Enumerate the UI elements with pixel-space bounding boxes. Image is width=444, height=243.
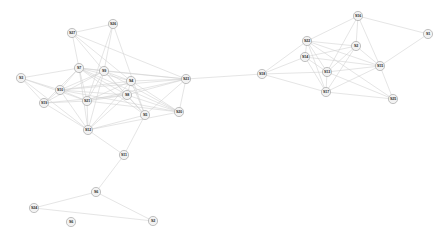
graph-edge bbox=[327, 72, 393, 99]
graph-node[interactable]: S25 bbox=[388, 94, 397, 103]
graph-node-label: S10 bbox=[57, 88, 63, 92]
graph-edge bbox=[87, 79, 186, 101]
graph-edge bbox=[358, 16, 428, 34]
graph-node-label: S14 bbox=[302, 55, 308, 59]
graph-node[interactable]: S1 bbox=[423, 29, 432, 38]
graph-node[interactable]: S12 bbox=[83, 125, 92, 134]
graph-node[interactable]: S22 bbox=[302, 36, 311, 45]
graph-edge bbox=[34, 192, 96, 208]
graph-node-label: S20 bbox=[176, 110, 182, 114]
graph-node[interactable]: S3 bbox=[16, 73, 25, 82]
graph-edge bbox=[327, 66, 380, 72]
graph-edge bbox=[113, 24, 145, 115]
graph-edge bbox=[21, 78, 88, 130]
graph-node-label: S13 bbox=[324, 70, 330, 74]
graph-node-label: S6 bbox=[94, 190, 98, 194]
graph-node-label: S22 bbox=[304, 39, 310, 43]
graph-node-label: S19 bbox=[41, 101, 47, 105]
graph-edge bbox=[262, 57, 305, 74]
graph-node[interactable]: S13 bbox=[322, 67, 331, 76]
graph-node-label: S24 bbox=[31, 206, 37, 210]
graph-node-label: S2 bbox=[354, 44, 358, 48]
graph-edge bbox=[72, 33, 79, 68]
graph-node-label: S1 bbox=[426, 32, 430, 36]
graph-node[interactable]: S24 bbox=[29, 203, 38, 212]
graph-node[interactable]: S19 bbox=[39, 98, 48, 107]
graph-node-label: S17 bbox=[323, 90, 329, 94]
graph-edge bbox=[44, 103, 88, 130]
graph-edge bbox=[88, 130, 124, 155]
graph-node[interactable]: S23 bbox=[181, 74, 190, 83]
graph-node-label: S5 bbox=[143, 113, 147, 117]
graph-edge bbox=[87, 101, 179, 112]
graph-node-label: S18 bbox=[259, 72, 265, 76]
graph-node[interactable]: S15 bbox=[375, 61, 384, 70]
graph-edge bbox=[44, 101, 87, 103]
graph-node[interactable]: S20 bbox=[174, 107, 183, 116]
graph-node[interactable]: S16 bbox=[353, 11, 362, 20]
graph-node[interactable]: S17 bbox=[321, 87, 330, 96]
graph-node-label: S15 bbox=[377, 64, 383, 68]
graph-edge bbox=[96, 192, 153, 221]
graph-node-label: S23 bbox=[183, 77, 189, 81]
graph-edge bbox=[380, 66, 393, 99]
graph-edge bbox=[307, 16, 358, 41]
graph-node[interactable]: S26 bbox=[108, 19, 117, 28]
graph-edge bbox=[326, 66, 380, 92]
edge-layer bbox=[21, 16, 428, 221]
network-graph-canvas: S1S2S3S4S5S6S7S8S9S10S11S12S13S14S15S16S… bbox=[0, 0, 444, 243]
graph-node[interactable]: S2 bbox=[351, 41, 360, 50]
graph-node-label: S11 bbox=[121, 153, 127, 157]
graph-edge bbox=[186, 74, 262, 79]
graph-edge bbox=[72, 24, 113, 33]
graph-edge bbox=[79, 68, 179, 112]
graph-node-label: S7 bbox=[77, 66, 81, 70]
graph-node[interactable]: S8 bbox=[122, 90, 131, 99]
graph-edge bbox=[262, 74, 326, 92]
graph-node[interactable]: S2 bbox=[148, 216, 157, 225]
graph-node[interactable]: S7 bbox=[74, 63, 83, 72]
graph-node[interactable]: S6 bbox=[66, 217, 75, 226]
graph-node-label: S8 bbox=[125, 93, 129, 97]
graph-edge bbox=[96, 155, 124, 192]
graph-node-label: S6 bbox=[69, 220, 73, 224]
graph-edge bbox=[262, 72, 327, 74]
graph-node-label: S21 bbox=[84, 99, 90, 103]
graph-node-label: S9 bbox=[102, 69, 106, 73]
graph-node[interactable]: S4 bbox=[126, 76, 135, 85]
graph-node-label: S3 bbox=[19, 76, 23, 80]
graph-edge bbox=[358, 16, 380, 66]
graph-node[interactable]: S6 bbox=[91, 187, 100, 196]
graph-node-label: S27 bbox=[69, 31, 75, 35]
graph-node[interactable]: S5 bbox=[140, 110, 149, 119]
graph-node-label: S2 bbox=[151, 219, 155, 223]
graph-node-label: S25 bbox=[390, 97, 396, 101]
graph-edge bbox=[326, 92, 393, 99]
graph-node[interactable]: S14 bbox=[300, 52, 309, 61]
network-graph-svg: S1S2S3S4S5S6S7S8S9S10S11S12S13S14S15S16S… bbox=[0, 0, 444, 243]
graph-edge bbox=[380, 34, 428, 66]
graph-node[interactable]: S27 bbox=[67, 28, 76, 37]
graph-edge bbox=[34, 208, 153, 221]
graph-node[interactable]: S10 bbox=[55, 85, 64, 94]
graph-node-label: S26 bbox=[110, 22, 116, 26]
graph-edge bbox=[72, 33, 186, 79]
graph-node-label: S4 bbox=[129, 79, 133, 83]
graph-node-label: S12 bbox=[85, 128, 91, 132]
graph-node[interactable]: S9 bbox=[99, 66, 108, 75]
graph-node[interactable]: S11 bbox=[119, 150, 128, 159]
graph-node[interactable]: S21 bbox=[82, 96, 91, 105]
graph-node-label: S16 bbox=[355, 14, 361, 18]
graph-node[interactable]: S18 bbox=[257, 69, 266, 78]
